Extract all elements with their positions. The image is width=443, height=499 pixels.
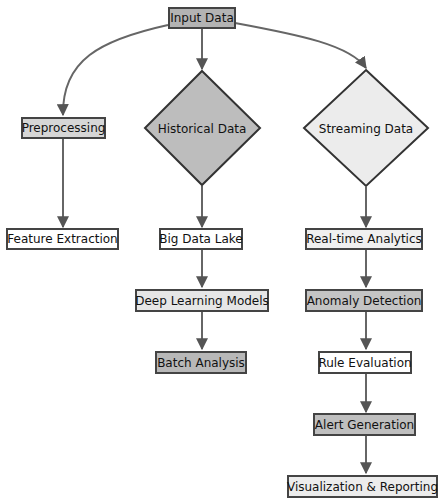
input-data-label: Input Data [170, 11, 234, 25]
realtime-analytics-label: Real-time Analytics [306, 232, 422, 246]
preprocessing-label: Preprocessing [22, 121, 106, 135]
edge-input-preprocessing [63, 25, 168, 115]
input-data-node: Input Data [168, 7, 236, 29]
visualization-reporting-node: Visualization & Reporting [287, 475, 438, 498]
batch-analysis-label: Batch Analysis [157, 356, 245, 370]
anomaly-detection-node: Anomaly Detection [305, 289, 423, 312]
preprocessing-node: Preprocessing [21, 117, 106, 139]
flowchart-canvas: Input Data Preprocessing Feature Extract… [0, 0, 443, 499]
edge-input-streaming [235, 23, 366, 68]
alert-generation-node: Alert Generation [313, 413, 416, 436]
realtime-analytics-node: Real-time Analytics [305, 228, 423, 250]
batch-analysis-node: Batch Analysis [155, 351, 247, 374]
deep-learning-label: Deep Learning Models [135, 294, 269, 308]
feature-extraction-node: Feature Extraction [6, 228, 119, 250]
rule-evaluation-label: Rule Evaluation [318, 356, 411, 370]
feature-extraction-label: Feature Extraction [7, 232, 117, 246]
big-data-lake-label: Big Data Lake [159, 232, 242, 246]
deep-learning-node: Deep Learning Models [135, 289, 269, 312]
historical-data-label: Historical Data [158, 122, 247, 136]
alert-generation-label: Alert Generation [315, 418, 414, 432]
big-data-lake-node: Big Data Lake [159, 228, 243, 250]
streaming-data-label: Streaming Data [319, 122, 413, 136]
rule-evaluation-node: Rule Evaluation [318, 351, 412, 374]
anomaly-detection-label: Anomaly Detection [307, 294, 422, 308]
visualization-reporting-label: Visualization & Reporting [287, 480, 438, 494]
